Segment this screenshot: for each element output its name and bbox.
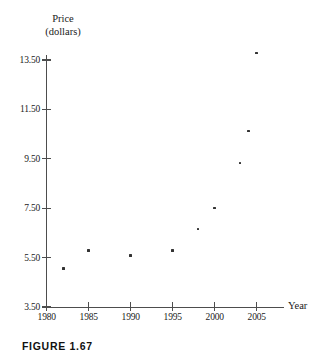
y-axis-tick-label-wrap: 7.50	[0, 203, 40, 213]
x-axis-tick	[46, 302, 47, 311]
data-point	[62, 267, 65, 270]
x-axis-tick	[130, 302, 131, 311]
x-axis-tick	[172, 302, 173, 311]
y-axis-tick-label-wrap: 3.50	[0, 302, 40, 312]
x-axis-tick	[256, 302, 257, 311]
y-axis-tick-label: 7.50	[0, 203, 40, 213]
x-axis-line	[46, 307, 284, 308]
data-point	[129, 254, 132, 257]
figure-1-67: Price (dollars) Year 3.505.507.509.5011.…	[0, 0, 312, 363]
y-axis-tick	[42, 158, 51, 159]
y-axis-tick-label: 11.50	[0, 104, 40, 114]
y-axis-tick	[42, 109, 51, 110]
y-axis-tick	[42, 257, 51, 258]
figure-caption: FIGURE 1.67	[22, 340, 93, 352]
data-point	[247, 130, 250, 133]
y-axis-tick-label: 3.50	[0, 302, 40, 312]
y-axis-tick-label-wrap: 11.50	[0, 104, 40, 114]
data-point	[239, 162, 242, 165]
y-axis-tick-label-wrap: 13.50	[0, 55, 40, 65]
y-axis-tick-label: 9.50	[0, 154, 40, 164]
y-axis-title-line-1: Price	[26, 12, 100, 25]
data-point	[197, 228, 200, 231]
x-axis-tick	[214, 302, 215, 311]
y-axis-tick	[42, 208, 51, 209]
data-point	[87, 249, 90, 252]
data-point	[171, 249, 174, 252]
x-axis-tick-label: 2000	[193, 312, 237, 323]
y-axis-tick	[42, 59, 51, 60]
x-axis-tick-label: 1985	[67, 312, 111, 323]
y-axis-tick-label-wrap: 9.50	[0, 154, 40, 164]
data-point	[213, 207, 216, 210]
data-point	[255, 52, 258, 55]
y-axis-title: Price (dollars)	[26, 12, 100, 38]
x-axis-tick-label: 1990	[109, 312, 153, 323]
y-axis-tick-label: 5.50	[0, 253, 40, 263]
x-axis-tick-label: 2005	[235, 312, 279, 323]
x-axis-tick-label: 1995	[151, 312, 195, 323]
scatter-plot: Price (dollars) Year 3.505.507.509.5011.…	[0, 0, 312, 330]
x-axis-tick-label: 1980	[25, 312, 69, 323]
y-axis-tick-label: 13.50	[0, 55, 40, 65]
y-axis-line	[46, 55, 47, 308]
x-axis-tick	[88, 302, 89, 311]
y-axis-tick-label-wrap: 5.50	[0, 253, 40, 263]
y-axis-title-line-2: (dollars)	[26, 25, 100, 38]
x-axis-title: Year	[288, 300, 307, 312]
